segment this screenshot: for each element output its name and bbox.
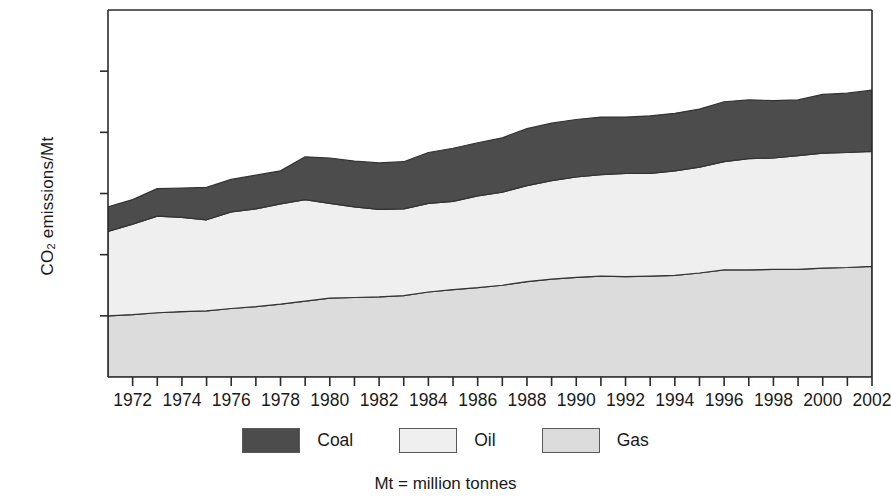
legend-item: Oil	[399, 428, 495, 453]
x-axis-tick-label: 1980	[310, 392, 349, 410]
x-axis-tick-label: 1978	[261, 392, 300, 410]
x-axis-tick-label: 1994	[655, 392, 694, 410]
x-axis-tick-label: 1984	[409, 392, 448, 410]
x-axis-tick-label: 2000	[803, 392, 842, 410]
legend-swatch	[399, 428, 457, 453]
legend-item: Coal	[242, 428, 353, 453]
x-axis-tick-label: 1996	[705, 392, 744, 410]
plot-area	[0, 0, 891, 500]
x-axis-tick-label: 1976	[212, 392, 251, 410]
x-axis-tick-label: 1998	[754, 392, 793, 410]
y-axis-tick-labels: 050001000015000200002500030000	[0, 0, 100, 500]
legend-label: Coal	[317, 430, 353, 451]
x-axis-tick-label: 1990	[557, 392, 596, 410]
legend-swatch	[542, 428, 600, 453]
x-axis-tick-label: 1982	[360, 392, 399, 410]
legend-item: Gas	[542, 428, 649, 453]
x-axis-tick-label: 2002	[853, 392, 891, 410]
chart-figure: CO2 emissions/Mt 05000100001500020000250…	[0, 0, 891, 500]
x-axis-tick-label: 1992	[606, 392, 645, 410]
x-axis-tick-label: 1972	[113, 392, 152, 410]
x-axis-tick-label: 1986	[458, 392, 497, 410]
legend-label: Oil	[474, 430, 495, 451]
x-axis-tick-label: 1988	[507, 392, 546, 410]
chart-caption: Mt = million tonnes	[0, 474, 891, 494]
chart-legend: CoalOilGas	[0, 428, 891, 453]
legend-label: Gas	[617, 430, 649, 451]
x-axis-tick-label: 1974	[162, 392, 201, 410]
legend-swatch	[242, 428, 300, 453]
